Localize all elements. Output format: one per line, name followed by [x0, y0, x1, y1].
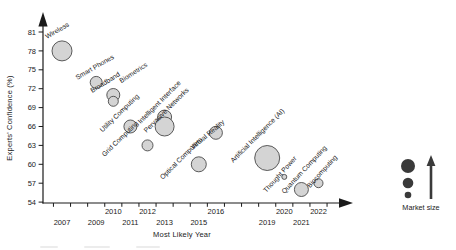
legend-size-circle-3: [405, 192, 412, 199]
cropped-caption-fragment: [40, 246, 260, 249]
y-tick-label: 57: [28, 179, 36, 188]
bubble-chart-canvas: 5457606366697275788120102012201620202022…: [0, 0, 456, 250]
bubble-label-wireless: Wireless: [44, 20, 71, 39]
bubble-optical-computers: [191, 157, 206, 172]
x-tick-label: 2015: [190, 218, 207, 227]
legend-size-circle-1: [401, 159, 415, 173]
y-tick-label: 63: [28, 141, 36, 150]
x-tick-label: 2012: [139, 207, 156, 216]
x-tick-label: 2016: [208, 207, 225, 216]
x-tick-label: 2020: [276, 207, 293, 216]
legend-market-size-label: Market size: [371, 203, 456, 212]
y-tick-label: 75: [28, 65, 36, 74]
y-tick-label: 72: [28, 84, 36, 93]
bubble-label-biometrics: Biometrics: [118, 61, 149, 84]
y-tick-label: 81: [28, 28, 36, 37]
x-tick-label: 2007: [54, 218, 71, 227]
bubble-artificial-intelligence-ai: [255, 146, 280, 171]
x-axis-arrow-icon: [339, 198, 353, 208]
bubble-grid-computing: [142, 140, 153, 151]
y-tick-label: 54: [28, 198, 36, 207]
legend-up-arrow-icon: [427, 155, 436, 166]
x-tick-label: 2022: [310, 207, 327, 216]
x-tick-label: 2013: [156, 218, 173, 227]
y-tick-label: 78: [28, 47, 36, 56]
x-tick-label: 2021: [293, 218, 310, 227]
x-tick-label: 2010: [105, 207, 122, 216]
x-tick-label: 2019: [259, 218, 276, 227]
y-axis-title: Experts' Confidence (%): [5, 18, 17, 218]
y-axis-arrow-icon: [38, 12, 47, 27]
bubble-wireless: [52, 41, 72, 61]
x-axis-title: Most Likely Year: [82, 230, 282, 239]
x-tick-label: 2009: [88, 218, 105, 227]
y-tick-label: 69: [28, 103, 36, 112]
y-tick-label: 60: [28, 160, 36, 169]
x-tick-label: 2011: [122, 218, 138, 227]
bubble-biometrics: [108, 96, 118, 106]
y-tick-label: 66: [28, 122, 36, 131]
legend-size-circle-2: [403, 178, 414, 189]
bubble-chart-figure: 5457606366697275788120102012201620202022…: [0, 0, 456, 250]
